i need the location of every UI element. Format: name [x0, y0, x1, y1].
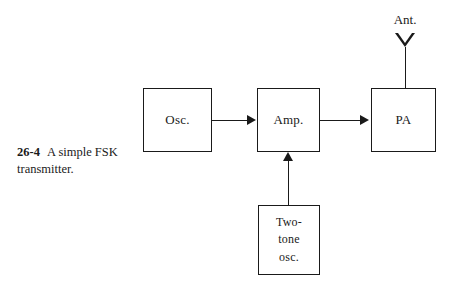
- arrowhead-twotone-osc-to-amp-icon: [283, 152, 293, 161]
- wire-pa-to-antenna: [405, 47, 406, 88]
- antenna-triangle-icon: [395, 33, 415, 47]
- figure-number: 26-4: [17, 145, 40, 159]
- block-two-tone-oscillator-label: Two- tone osc.: [276, 214, 302, 265]
- figure-caption: 26-4A simple FSK transmitter.: [17, 144, 145, 177]
- block-power-amplifier-label: PA: [396, 112, 412, 129]
- arrowhead-osc-to-amp-icon: [247, 115, 256, 125]
- wire-amp-to-pa: [320, 120, 362, 121]
- block-oscillator: Osc.: [143, 88, 212, 152]
- figure-block-diagram: Ant. Osc. Amp. PA Two- tone osc. 26-4A s…: [0, 0, 452, 285]
- block-amplifier: Amp.: [257, 88, 320, 152]
- block-oscillator-label: Osc.: [165, 112, 189, 129]
- block-two-tone-oscillator: Two- tone osc.: [258, 205, 320, 275]
- block-amplifier-label: Amp.: [273, 112, 303, 129]
- wire-osc-to-amp: [212, 120, 249, 121]
- arrowhead-amp-to-pa-icon: [360, 115, 369, 125]
- antenna-label: Ant.: [381, 12, 429, 28]
- wire-twotone-osc-to-amp: [288, 161, 289, 205]
- block-power-amplifier: PA: [371, 88, 436, 152]
